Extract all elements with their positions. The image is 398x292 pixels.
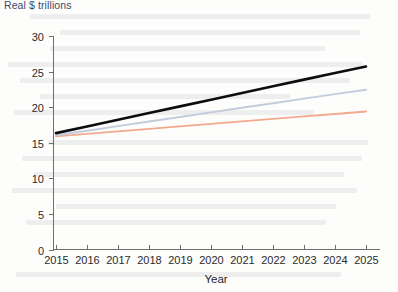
x-tick-label: 2015 (44, 254, 68, 266)
y-axis-ticks (49, 37, 54, 251)
x-axis-ticks (57, 245, 367, 250)
y-tick-label: 5 (38, 209, 44, 221)
y-tick-label: 15 (32, 138, 44, 150)
y-tick-label: 20 (32, 102, 44, 114)
x-tick-label: 2019 (168, 254, 192, 266)
x-tick-label: 2024 (323, 254, 347, 266)
figure-root: Real $ trillions 051015202530 2015201620… (0, 0, 398, 292)
x-tick-label: 2017 (106, 254, 130, 266)
x-tick-label: 2018 (137, 254, 161, 266)
y-tick-label: 25 (32, 67, 44, 79)
series-line-mid-growth (56, 90, 366, 136)
y-tick-label: 0 (38, 245, 44, 257)
y-tick-label: 30 (32, 31, 44, 43)
x-axis-title: Year (204, 273, 227, 285)
x-tick-label: 2025 (354, 254, 378, 266)
y-tick-labels: 051015202530 (32, 31, 44, 257)
y-tick-label: 10 (32, 173, 44, 185)
x-tick-label: 2020 (199, 254, 223, 266)
x-tick-label: 2016 (75, 254, 99, 266)
x-tick-label: 2022 (261, 254, 285, 266)
series-group (56, 67, 366, 137)
x-tick-labels: 2015201620172018201920202021202220232024… (44, 254, 378, 266)
x-tick-label: 2021 (230, 254, 254, 266)
line-chart-canvas: 051015202530 201520162017201820192020202… (0, 0, 398, 292)
chart-figure: Real $ trillions 051015202530 2015201620… (0, 0, 398, 292)
axis-spines (54, 36, 381, 250)
x-tick-label: 2023 (292, 254, 316, 266)
